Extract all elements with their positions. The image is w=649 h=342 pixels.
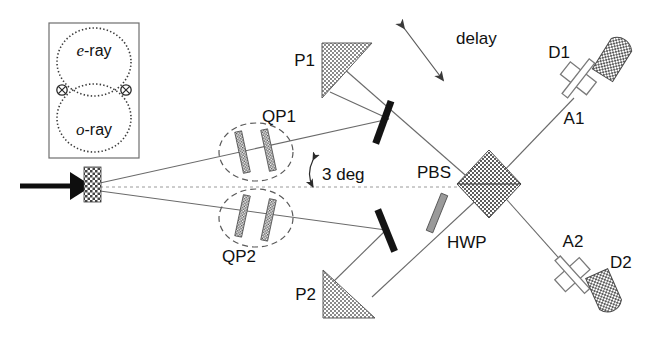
analyzer-a2 [545, 247, 599, 302]
double-arrow-icon [404, 28, 443, 80]
mirror-m2 [375, 208, 398, 252]
angle-arc-icon [310, 160, 314, 187]
angle-annotation: 3 deg [310, 160, 365, 187]
a2-label: A2 [563, 232, 584, 251]
pbs-cube [457, 150, 521, 218]
pump-beam-arrow [20, 172, 92, 200]
p1-label: P1 [294, 51, 315, 70]
qp1-plate-2 [261, 129, 277, 172]
beam-pbs-to-d2 [500, 192, 565, 265]
detector-d1 [592, 33, 635, 81]
prism-p1 [322, 43, 372, 98]
o-ray-label: o-ray [76, 120, 112, 139]
optics-setup-diagram: e-ray o-ray [0, 0, 649, 342]
qp1-group: QP1 [219, 107, 296, 181]
beam-pbs-to-d1 [498, 98, 574, 177]
p2-label: P2 [295, 285, 316, 304]
bbo-crystal-block [84, 167, 101, 202]
beam-m2-to-p2 [330, 230, 386, 285]
qp1-dashed-outline [219, 123, 293, 181]
qp1-label: QP1 [262, 107, 296, 126]
e-ray-suffix: -ray [84, 42, 112, 59]
o-ray-suffix: -ray [84, 121, 112, 138]
qp2-label: QP2 [222, 247, 256, 266]
delay-annotation: delay [404, 28, 497, 80]
e-ray-label: e-ray [76, 41, 111, 60]
delay-label: delay [456, 29, 497, 48]
qp2-dashed-outline [219, 189, 293, 247]
qp2-plate-1 [235, 195, 251, 238]
d2-label: D2 [610, 253, 632, 272]
qp2-group: QP2 [219, 189, 293, 266]
hwp-label: HWP [447, 233, 487, 252]
half-wave-plate [426, 193, 447, 233]
qp2-plate-2 [261, 199, 277, 242]
a1-label: A1 [564, 109, 585, 128]
detector-d2 [586, 269, 625, 316]
pbs-label: PBS [417, 163, 451, 182]
intersection-marker-right [121, 85, 131, 95]
figure-canvas: e-ray o-ray [0, 0, 649, 342]
emission-cone-inset: e-ray o-ray [49, 23, 139, 158]
prism-p2 [323, 270, 375, 318]
angle-label: 3 deg [322, 165, 365, 184]
o-ray-italic: o [76, 120, 85, 139]
d1-label: D1 [548, 43, 570, 62]
beam-m1-to-p1 [330, 92, 389, 119]
intersection-marker-left [57, 85, 67, 95]
